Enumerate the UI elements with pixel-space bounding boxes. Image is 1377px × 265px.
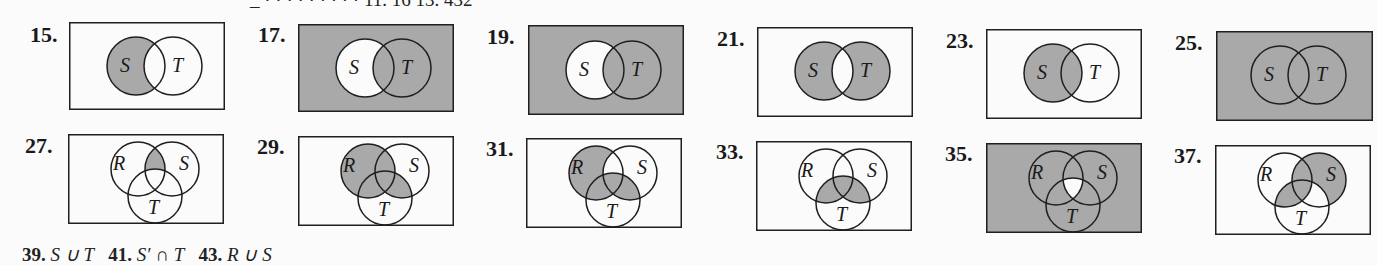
venn-diagram: S T — [69, 22, 225, 110]
set-label-s: S — [1326, 163, 1336, 185]
set-label-s: S — [1097, 161, 1107, 183]
set-label-t: T — [1316, 63, 1329, 85]
venn-diagram: R S T — [1215, 145, 1371, 237]
exercise-number: 15. — [30, 22, 58, 48]
set-label-s: S — [120, 54, 130, 76]
bottom-partial-text-line: 39. S ∪ T 41. S′ ∩ T 43. R ∪ S — [22, 243, 272, 265]
set-label-s: S — [409, 154, 419, 176]
set-label-r: R — [342, 154, 355, 176]
set-label-s: S — [808, 59, 818, 81]
exercise-number: 17. — [258, 22, 286, 48]
venn-diagram: S T — [528, 25, 684, 115]
exercise-number: 23. — [946, 28, 974, 54]
set-label-s: S — [637, 156, 647, 178]
venn-diagram: R S T — [756, 141, 912, 233]
exercise-number: 37. — [1174, 143, 1202, 169]
exercise-number: 19. — [487, 24, 515, 50]
set-label-t: T — [1066, 205, 1079, 227]
venn-diagram: R S T — [986, 143, 1142, 235]
venn-diagram: R S T — [298, 136, 454, 228]
exercise-number: 33. — [716, 139, 744, 165]
set-label-t: T — [172, 54, 185, 76]
exercise-answer: S′ ∩ T — [137, 244, 184, 265]
set-label-t: T — [631, 58, 644, 80]
exercise-number: 43. — [199, 244, 223, 265]
top-partial-text-line: _ · · · · · · · · · 11. 16 13. 432 — [250, 0, 473, 11]
exercise-answer: S ∪ T — [51, 244, 95, 265]
venn-diagram: S T — [986, 29, 1142, 119]
exercise-number: 31. — [486, 136, 514, 162]
set-label-t: T — [378, 198, 391, 220]
exercise-number: 27. — [25, 133, 53, 159]
set-label-t: T — [148, 196, 161, 218]
set-label-s: S — [179, 152, 189, 174]
exercise-number: 39. — [22, 244, 46, 265]
venn-diagram: R S T — [68, 134, 224, 226]
set-label-s: S — [1037, 61, 1047, 83]
exercise-number: 25. — [1175, 30, 1203, 56]
exercise-number: 41. — [108, 244, 132, 265]
set-label-t: T — [1295, 207, 1308, 229]
set-label-r: R — [570, 156, 583, 178]
venn-diagram: S T — [757, 27, 913, 117]
venn-diagram: R S T — [526, 138, 682, 230]
set-label-t: T — [1089, 61, 1102, 83]
set-label-t: T — [606, 200, 619, 222]
set-label-t: T — [401, 56, 414, 78]
set-label-s: S — [579, 58, 589, 80]
set-label-r: R — [800, 159, 813, 181]
set-label-s: S — [1264, 63, 1274, 85]
set-label-s: S — [867, 159, 877, 181]
exercise-number: 35. — [945, 141, 973, 167]
exercise-number: 21. — [717, 26, 745, 52]
set-label-s: S — [349, 56, 359, 78]
venn-diagram: S T — [1216, 31, 1373, 121]
set-label-r: R — [1030, 161, 1043, 183]
set-label-t: T — [836, 203, 849, 225]
exercise-number: 29. — [257, 134, 285, 160]
venn-diagram: S T — [298, 24, 454, 112]
set-label-r: R — [112, 152, 125, 174]
exercise-answer: R ∪ S — [227, 244, 272, 265]
set-label-r: R — [1259, 163, 1272, 185]
set-label-t: T — [860, 59, 873, 81]
